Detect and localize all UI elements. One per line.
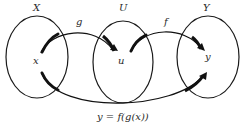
arrow-composite-thick-start	[42, 73, 58, 90]
arrow-g	[41, 33, 113, 53]
arrow-f	[131, 32, 201, 52]
set-x-label: X	[33, 3, 40, 13]
function-g-label: g	[76, 17, 82, 27]
element-x-label: x	[33, 56, 39, 66]
element-y-label: y	[205, 52, 211, 62]
function-f-label: f	[164, 17, 168, 27]
arrow-f-thick	[131, 35, 146, 51]
element-u-label: u	[118, 56, 124, 66]
arrow-composite	[42, 74, 203, 103]
composition-diagram: X U Y g f x u y y = f(g(x))	[0, 0, 240, 130]
arrow-g-thick	[42, 34, 58, 52]
set-y-label: Y	[203, 3, 210, 13]
set-u-label: U	[119, 3, 127, 13]
composition-caption: y = f(g(x))	[97, 112, 149, 122]
